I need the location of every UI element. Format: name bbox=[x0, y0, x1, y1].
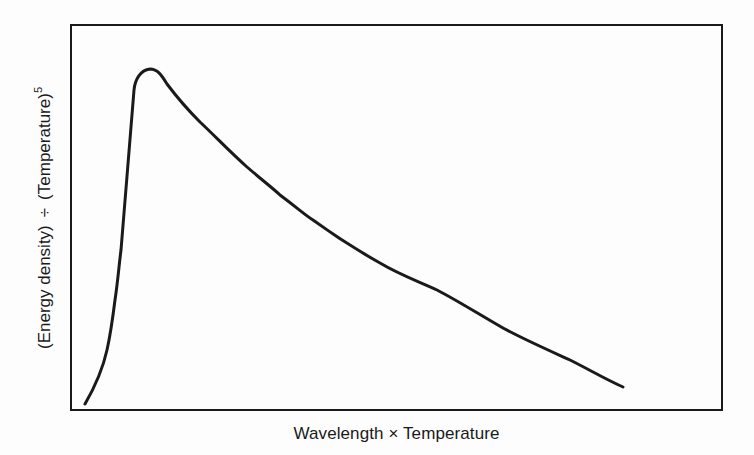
division-sign: ÷ bbox=[35, 200, 54, 225]
plot-frame bbox=[71, 25, 722, 410]
y-axis-label-exponent: 5 bbox=[32, 87, 44, 93]
y-axis-label-numerator: (Energy density) bbox=[35, 225, 54, 349]
y-axis-label: (Energy density)÷(Temperature)5 bbox=[33, 87, 55, 349]
x-axis-label: Wavelength × Temperature bbox=[70, 424, 723, 444]
chart-canvas bbox=[0, 0, 754, 455]
y-axis-label-denominator: (Temperature) bbox=[35, 93, 54, 200]
spectral-curve bbox=[85, 69, 623, 404]
